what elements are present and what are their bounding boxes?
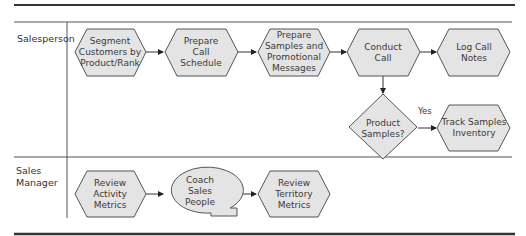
- node-label-line: Metrics: [278, 200, 311, 210]
- node-label-line: Prepare: [277, 30, 312, 40]
- svg-text:People: People: [185, 197, 215, 207]
- node-label-line: Schedule: [180, 58, 222, 68]
- node-label-line: Segment: [90, 36, 131, 46]
- edge-label-yes: Yes: [417, 106, 432, 116]
- svg-text:Manager: Manager: [16, 177, 58, 188]
- node-label-line: Inventory: [453, 128, 497, 138]
- node-label-line: Conduct: [364, 42, 402, 52]
- node-label-line: Notes: [461, 53, 487, 63]
- svg-text:Samples?: Samples?: [361, 129, 404, 139]
- lane-label-line: Manager: [16, 177, 58, 188]
- svg-text:Segment: Segment: [90, 36, 131, 46]
- node-label-line: Samples and: [265, 41, 323, 51]
- node-label-line: Prepare: [184, 36, 219, 46]
- svg-text:Review: Review: [278, 178, 310, 188]
- svg-text:Metrics: Metrics: [94, 200, 127, 210]
- svg-text:Sales: Sales: [188, 186, 212, 196]
- node-label-line: Promotional: [267, 52, 321, 62]
- svg-text:Log Call: Log Call: [456, 42, 492, 52]
- node-coach-sales-people[interactable]: Coach Sales People: [171, 167, 243, 216]
- svg-text:Promotional: Promotional: [267, 52, 321, 62]
- lane-label-line: Sales: [16, 165, 41, 176]
- svg-text:Sales: Sales: [16, 165, 41, 176]
- svg-text:Call: Call: [193, 47, 210, 57]
- node-label-line: Review: [278, 178, 310, 188]
- svg-text:Conduct: Conduct: [364, 42, 402, 52]
- lane-label-line: Salesperson: [17, 33, 75, 44]
- node-label-line: Review: [94, 178, 126, 188]
- node-label-line: Track Samples: [441, 117, 507, 127]
- svg-text:Inventory: Inventory: [453, 128, 497, 138]
- svg-text:Product: Product: [366, 118, 401, 128]
- node-label-line: Product: [366, 118, 401, 128]
- node-prepare-samples[interactable]: Prepare Samples and Promotional Messages: [258, 29, 330, 76]
- node-log-call-notes[interactable]: Log Call Notes: [437, 29, 510, 76]
- node-label-line: People: [185, 197, 215, 207]
- node-review-activity-metrics[interactable]: Review Activity Metrics: [75, 171, 146, 217]
- node-label-line: Messages: [272, 63, 316, 73]
- node-label-line: Samples?: [361, 129, 404, 139]
- node-prepare-call-schedule[interactable]: Prepare Call Schedule: [165, 29, 238, 76]
- svg-text:Track Samples: Track Samples: [441, 117, 507, 127]
- lane-label-salesperson: Salesperson: [17, 33, 75, 44]
- svg-text:Schedule: Schedule: [180, 58, 222, 68]
- node-label-line: Product/Rank: [80, 58, 140, 68]
- svg-text:Coach: Coach: [186, 175, 214, 185]
- svg-text:Metrics: Metrics: [278, 200, 311, 210]
- svg-text:Territory: Territory: [274, 189, 313, 199]
- node-segment-customers[interactable]: Segment Customers by Product/Rank: [75, 29, 146, 76]
- node-track-samples-inventory[interactable]: Track Samples Inventory: [437, 105, 510, 151]
- node-review-territory-metrics[interactable]: Review Territory Metrics: [258, 171, 330, 217]
- svg-text:Product/Rank: Product/Rank: [80, 58, 140, 68]
- svg-text:Samples and: Samples and: [265, 41, 323, 51]
- node-label-line: Territory: [274, 189, 313, 199]
- svg-text:Activity: Activity: [93, 189, 127, 199]
- node-label-line: Coach: [186, 175, 214, 185]
- lane-label-sales-manager: Sales Manager: [16, 165, 58, 188]
- node-label-line: Log Call: [456, 42, 492, 52]
- node-label-line: Call: [375, 53, 392, 63]
- node-label-line: Customers by: [79, 47, 142, 57]
- svg-text:Prepare: Prepare: [277, 30, 312, 40]
- svg-text:Messages: Messages: [272, 63, 316, 73]
- swimlane-diagram: Salesperson Sales Manager Yes Segment Cu…: [0, 0, 526, 236]
- node-conduct-call[interactable]: Conduct Call: [347, 29, 420, 76]
- svg-text:Notes: Notes: [461, 53, 487, 63]
- svg-text:Salesperson: Salesperson: [17, 33, 75, 44]
- node-decision-product-samples[interactable]: Product Samples?: [349, 94, 417, 159]
- node-label-line: Metrics: [94, 200, 127, 210]
- node-label-line: Call: [193, 47, 210, 57]
- svg-text:Review: Review: [94, 178, 126, 188]
- svg-text:Prepare: Prepare: [184, 36, 219, 46]
- svg-text:Customers by: Customers by: [79, 47, 142, 57]
- svg-text:Call: Call: [375, 53, 392, 63]
- node-label-line: Activity: [93, 189, 127, 199]
- node-label-line: Sales: [188, 186, 212, 196]
